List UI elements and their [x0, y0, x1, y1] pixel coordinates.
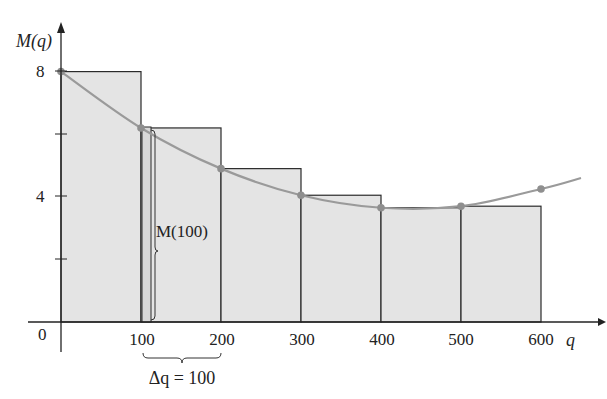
bar-0-100	[61, 72, 141, 322]
delta-q-brace	[143, 353, 221, 363]
y-tick-label-4: 4	[36, 187, 45, 206]
m100-strip	[142, 127, 151, 322]
x-tick-label-400: 400	[369, 330, 395, 349]
x-tick-label-600: 600	[528, 330, 554, 349]
origin-label: 0	[38, 325, 47, 344]
bar-400-500	[381, 208, 461, 322]
curve-point-600	[537, 185, 545, 193]
x-axis-arrow-icon	[598, 318, 606, 326]
x-tick-label-100: 100	[129, 330, 155, 349]
delta-q-label: Δq = 100	[149, 368, 216, 388]
curve-point-100	[137, 124, 145, 132]
riemann-sum-chart: M(q) q 8 4 0 100 200 300 400 500 600 M(1…	[0, 0, 607, 399]
curve-point-400	[377, 204, 385, 212]
m100-label: M(100)	[156, 222, 208, 241]
bar-500-600	[461, 206, 541, 322]
y-axis-arrow-icon	[57, 22, 65, 33]
x-tick-label-300: 300	[289, 330, 315, 349]
y-tick-label-8: 8	[36, 62, 45, 81]
x-tick-label-200: 200	[209, 330, 235, 349]
y-axis-label: M(q)	[15, 31, 52, 52]
x-axis-label: q	[566, 330, 575, 350]
curve-point-200	[217, 165, 225, 173]
bar-300-400	[301, 195, 381, 322]
curve-point-300	[297, 191, 305, 199]
curve-point-500	[457, 202, 465, 210]
x-tick-label-500: 500	[448, 330, 474, 349]
